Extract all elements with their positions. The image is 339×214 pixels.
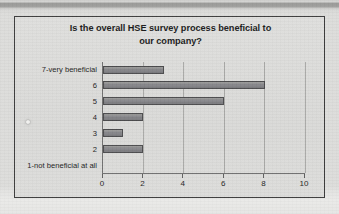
category-label: 7-very beneficial (0, 65, 97, 74)
category-label: 5 (0, 97, 97, 106)
chart-frame: Is the overall HSE survey process benefi… (14, 16, 325, 198)
bar (103, 66, 164, 74)
axis-tick-label: 2 (130, 179, 154, 188)
value-axis: 0246810 (102, 174, 304, 192)
plot-area (102, 62, 305, 174)
bar-row (103, 125, 305, 141)
category-label: 6 (0, 81, 97, 90)
category-label: 3 (0, 129, 97, 138)
axis-tick (182, 174, 183, 178)
axis-tick-label: 10 (292, 179, 316, 188)
axis-tick (223, 174, 224, 178)
bar-row (103, 110, 305, 126)
bar (103, 97, 224, 105)
category-label: 2 (0, 145, 97, 154)
axis-tick (142, 174, 143, 178)
bar-row (103, 78, 305, 94)
bar-row (103, 157, 305, 173)
axis-tick-label: 6 (211, 179, 235, 188)
category-label: 4 (0, 113, 97, 122)
chart-title-line-1: Is the overall HSE survey process benefi… (31, 22, 310, 35)
axis-tick (102, 174, 103, 178)
bar (103, 129, 123, 137)
axis-tick-label: 4 (171, 179, 195, 188)
bar-row (103, 141, 305, 157)
axis-tick (304, 174, 305, 178)
axis-tick-label: 8 (252, 179, 276, 188)
scan-artifact-speck (26, 120, 30, 124)
bar-row (103, 62, 305, 78)
axis-tick-label: 0 (90, 179, 114, 188)
chart-title-line-2: our company? (31, 35, 310, 48)
axis-tick (263, 174, 264, 178)
bar (103, 81, 265, 89)
bar-row (103, 94, 305, 110)
bar (103, 145, 143, 153)
chart-title: Is the overall HSE survey process benefi… (31, 22, 310, 47)
category-label: 1-not beneficial at all (0, 161, 97, 170)
bar (103, 113, 143, 121)
